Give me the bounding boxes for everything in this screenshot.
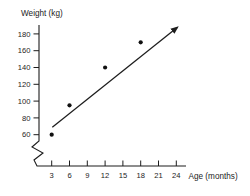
data-point [139, 40, 143, 44]
x-axis-title: Age (months) [189, 172, 238, 181]
y-tick-label: 60 [22, 130, 30, 139]
trend-line [52, 27, 177, 127]
data-point [50, 133, 54, 137]
y-tick-label: 140 [18, 63, 31, 72]
y-tick-label: 100 [18, 97, 31, 106]
figure: Weight (kg) 6080100120140160180 36912151… [0, 0, 250, 196]
y-tick-label: 120 [18, 80, 31, 89]
y-tick-label: 80 [22, 114, 30, 123]
x-tick-label: 12 [101, 171, 109, 180]
x-tick-label: 3 [50, 171, 54, 180]
axis-lines-with-break [32, 25, 186, 166]
x-tick-label: 9 [85, 171, 89, 180]
y-tick-label: 160 [18, 46, 31, 55]
data-point [103, 65, 107, 69]
x-tick-label: 15 [119, 171, 127, 180]
x-tick-label: 6 [67, 171, 71, 180]
x-tick-label: 18 [136, 171, 144, 180]
y-axis-ticks: 6080100120140160180 [18, 30, 39, 140]
x-tick-label: 24 [172, 171, 180, 180]
y-axis-title: Weight (kg) [21, 9, 63, 18]
data-point [67, 103, 71, 107]
growth-chart: Weight (kg) 6080100120140160180 36912151… [0, 0, 250, 196]
x-tick-label: 21 [154, 171, 162, 180]
y-tick-label: 180 [18, 30, 31, 39]
x-axis-ticks: 3691215182124 [50, 161, 181, 181]
data-points [50, 40, 143, 137]
